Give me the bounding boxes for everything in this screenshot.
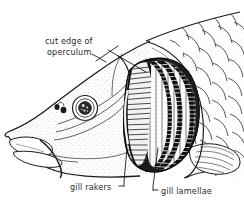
label-operculum-line1: cut edge of [45, 36, 93, 46]
illustration-canvas: cut edge of operculum gill rakers gill l… [0, 0, 244, 206]
fish-gill-anatomy-figure: cut edge of operculum gill rakers gill l… [0, 0, 244, 206]
label-operculum-line2: operculum [47, 47, 91, 57]
label-gill-rakers: gill rakers [70, 182, 111, 192]
label-gill-lamellae: gill lamellae [161, 186, 212, 196]
eye [73, 96, 98, 121]
